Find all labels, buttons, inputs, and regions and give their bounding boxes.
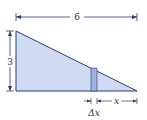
height-label: 3 <box>7 57 13 67</box>
x-label: x <box>114 96 119 106</box>
triangle <box>16 31 137 91</box>
width-label: 6 <box>74 12 80 22</box>
triangle-diagram: 6 3 x Δx <box>0 0 147 120</box>
delta-x-strip <box>91 68 97 91</box>
delta-x-label: Δx <box>87 108 100 118</box>
